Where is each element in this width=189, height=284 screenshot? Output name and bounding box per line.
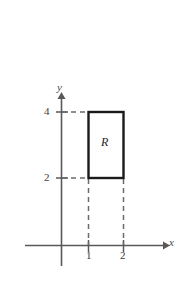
- y-tick-label-4: 4: [44, 106, 50, 117]
- y-axis-arrowhead: [58, 92, 66, 99]
- y-tick-label-2: 2: [44, 172, 50, 183]
- figure-canvas: y x 4 2 1 2 R: [0, 0, 189, 284]
- x-tick-label-2: 2: [120, 250, 126, 261]
- region-label-R: R: [101, 136, 108, 148]
- y-axis-label: y: [57, 82, 62, 93]
- x-tick-label-1: 1: [86, 250, 92, 261]
- x-axis-label: x: [169, 237, 174, 248]
- coordinate-plot: [0, 0, 189, 284]
